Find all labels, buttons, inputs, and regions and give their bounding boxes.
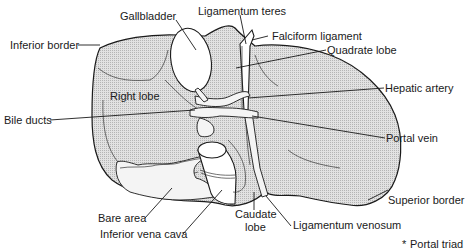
leader-falciform bbox=[252, 36, 268, 40]
legend-text: Portal triad bbox=[410, 238, 463, 250]
label-inferior-border: Inferior border bbox=[10, 39, 79, 51]
label-hepatic-artery: Hepatic artery bbox=[385, 82, 454, 94]
label-portal-vein: Portal vein bbox=[386, 132, 438, 144]
label-inferior-vena-cava: Inferior vena cava bbox=[100, 228, 188, 240]
label-gallbladder: Gallbladder bbox=[120, 10, 177, 22]
label-falciform-ligament: Falciform ligament bbox=[272, 30, 362, 42]
label-caudate-lobe-line1: Caudate bbox=[235, 208, 277, 220]
label-quadrate-lobe: Quadrate lobe bbox=[327, 44, 397, 56]
label-ligamentum-venosum: Ligamentum venosum bbox=[293, 219, 401, 231]
diagram-canvas: Gallbladder Ligamentum teres Falciform l… bbox=[0, 0, 470, 251]
label-bile-ducts: Bile ducts bbox=[4, 114, 52, 126]
label-caudate-lobe-line2: lobe bbox=[245, 221, 266, 233]
legend: * Portal triad bbox=[402, 238, 463, 250]
label-bare-area: Bare area bbox=[98, 212, 147, 224]
label-ligamentum-teres: Ligamentum teres bbox=[198, 5, 287, 17]
liver-diagram: Gallbladder Ligamentum teres Falciform l… bbox=[0, 0, 470, 251]
legend-marker: * bbox=[402, 238, 407, 250]
label-superior-border: Superior border bbox=[388, 194, 465, 206]
label-right-lobe: Right lobe bbox=[110, 90, 160, 102]
